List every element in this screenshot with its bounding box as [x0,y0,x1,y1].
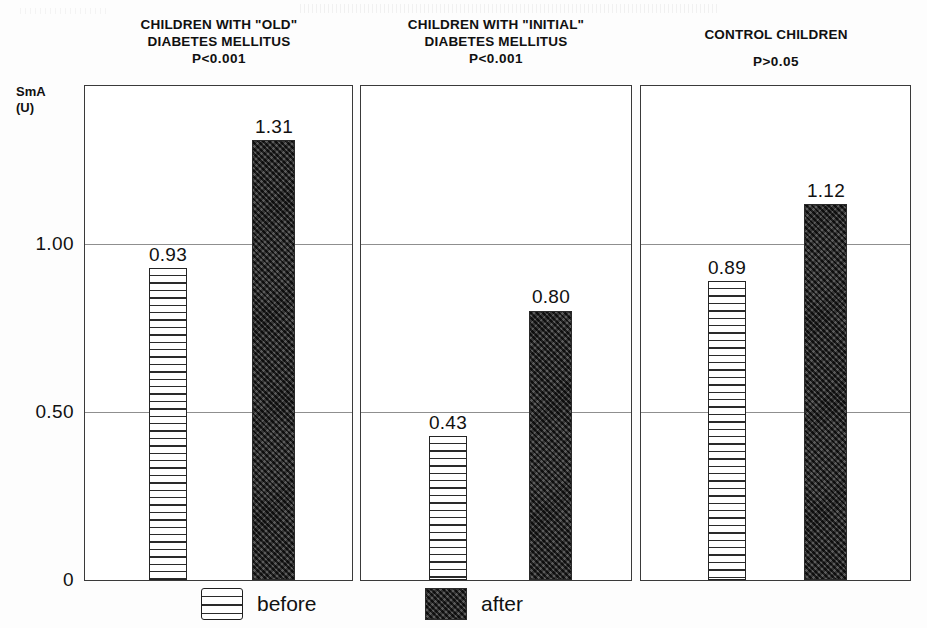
panel-pvalue: P<0.001 [84,50,354,67]
bar-value-before-control: 0.89 [685,257,769,279]
gridline-1.00 [641,244,910,245]
bar-before-initial-diabetes [429,436,467,580]
bar-after-old-diabetes [252,140,295,580]
bar-value-after-control: 1.12 [784,180,868,202]
bar-after-initial-diabetes [529,311,572,580]
panel-title-line1: CHILDREN WITH "OLD" [84,16,354,33]
panel-title-line1: CHILDREN WITH "INITIAL" [360,16,632,33]
legend-swatch-after-icon [425,588,467,620]
y-tick-label-0.50: 0.50 [8,401,74,423]
bar-after-control [804,204,847,580]
y-axis-label-line2: (U) [16,100,78,116]
legend-label-after: after [481,592,523,616]
panel-title-line2: DIABETES MELLITUS [360,33,632,50]
panel-title-control: CONTROL CHILDREN P>0.05 [640,26,912,70]
gridline-0.50 [361,412,631,413]
bar-value-before-old-diabetes: 0.93 [126,244,210,266]
gridline-0.50 [85,412,352,413]
bar-value-after-old-diabetes: 1.31 [232,116,316,138]
y-tick-label-0: 0 [8,569,74,591]
plot-panel-initial-diabetes: 0.43 0.80 [360,85,632,581]
panel-title-initial-diabetes: CHILDREN WITH "INITIAL" DIABETES MELLITU… [360,16,632,67]
bar-value-before-initial-diabetes: 0.43 [406,412,490,434]
panel-title-line1: CONTROL CHILDREN [640,26,912,43]
gridline-0.50 [641,412,910,413]
panel-pvalue: P<0.001 [360,50,632,67]
legend-item-after: after [425,588,523,620]
gridline-1.00 [361,244,631,245]
y-axis-label: SmA (U) [16,84,78,116]
panel-title-old-diabetes: CHILDREN WITH "OLD" DIABETES MELLITUS P<… [84,16,354,67]
bar-before-old-diabetes [149,268,187,580]
y-tick-label-1.00: 1.00 [8,233,74,255]
panel-pvalue: P>0.05 [640,53,912,70]
legend-swatch-before-icon [201,588,243,620]
plot-panel-control: 0.89 1.12 [640,85,911,581]
bar-value-after-initial-diabetes: 0.80 [509,286,593,308]
legend-item-before: before [201,588,317,620]
scan-artifact-top [300,4,720,13]
plot-panel-old-diabetes: 0.93 1.31 [84,85,353,581]
scan-artifact-top-left [20,8,110,14]
legend-label-before: before [257,592,317,616]
panel-title-line2: DIABETES MELLITUS [84,33,354,50]
y-axis-label-line1: SmA [16,84,78,100]
chart-figure: CHILDREN WITH "OLD" DIABETES MELLITUS P<… [0,0,927,628]
bar-before-control [708,281,746,580]
